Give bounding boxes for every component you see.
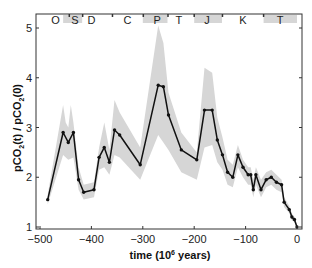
y-tick-label: 4: [26, 72, 32, 84]
x-tick-label: −200: [182, 233, 207, 245]
x-tick-label: −400: [79, 233, 104, 245]
x-axis-label: time (106 years): [130, 249, 211, 261]
y-tick-label: 1: [26, 221, 32, 233]
period-label: C: [123, 14, 131, 26]
data-point: [77, 178, 80, 181]
data-point: [157, 84, 160, 87]
data-point: [103, 146, 106, 149]
y-axis-label: pCO2(t) / pCO2(0): [11, 84, 25, 172]
data-point: [293, 218, 296, 221]
data-point: [221, 153, 224, 156]
data-point: [167, 113, 170, 116]
data-point: [139, 163, 142, 166]
x-tick-label: −100: [233, 233, 258, 245]
data-point: [280, 183, 283, 186]
x-tick-label: −500: [28, 233, 53, 245]
data-point: [270, 176, 273, 179]
period-label: K: [239, 14, 247, 26]
data-point: [236, 153, 239, 156]
period-label: T: [175, 14, 182, 26]
data-point: [275, 181, 278, 184]
period-label: D: [87, 14, 95, 26]
data-point: [61, 131, 64, 134]
data-point: [259, 188, 262, 191]
data-point: [67, 141, 70, 144]
period-label: O: [51, 14, 60, 26]
y-tick-label: 5: [26, 22, 32, 34]
data-point: [82, 190, 85, 193]
y-tick-label: 2: [26, 171, 32, 183]
period-label: T: [277, 14, 284, 26]
period-label: S: [71, 14, 78, 26]
data-point: [241, 166, 244, 169]
data-point: [72, 131, 75, 134]
data-point: [118, 133, 121, 136]
data-point: [97, 156, 100, 159]
data-point: [108, 161, 111, 164]
data-point: [46, 198, 49, 201]
data-point: [210, 108, 213, 111]
data-point: [195, 158, 198, 161]
data-point: [254, 173, 257, 176]
data-point: [216, 138, 219, 141]
data-point: [290, 215, 293, 218]
data-point: [113, 128, 116, 131]
data-point: [226, 171, 229, 174]
data-point: [92, 188, 95, 191]
y-tick-label: 3: [26, 122, 32, 134]
data-point: [231, 176, 234, 179]
chart-svg: 12345 −500−400−300−200−1000 OSDCPTJKT ti…: [0, 0, 312, 268]
data-point: [288, 208, 291, 211]
data-point: [252, 188, 255, 191]
data-point: [282, 200, 285, 203]
data-point: [264, 178, 267, 181]
x-tick-label: 0: [294, 233, 300, 245]
chart-container: 12345 −500−400−300−200−1000 OSDCPTJKT ti…: [0, 0, 312, 268]
data-point: [249, 173, 252, 176]
data-point: [162, 85, 165, 88]
data-point: [180, 148, 183, 151]
period-label: P: [154, 14, 161, 26]
period-label: J: [204, 14, 210, 26]
x-tick-label: −300: [130, 233, 155, 245]
data-point: [203, 108, 206, 111]
